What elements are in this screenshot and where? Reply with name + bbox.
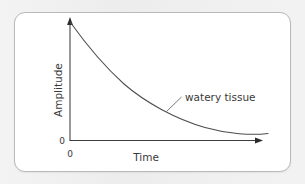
curve-annotation-label: watery tissue	[185, 91, 256, 103]
x-axis-arrow-icon	[255, 138, 263, 144]
x-axis-title: Time	[132, 151, 159, 163]
decay-curve	[71, 23, 269, 135]
annotation-leader-line	[167, 97, 182, 112]
y-origin-label: 0	[59, 136, 65, 146]
amplitude-decay-plot: watery tissue Amplitude Time 0 0	[0, 0, 305, 184]
x-origin-label: 0	[67, 149, 73, 159]
y-axis-title: Amplitude	[52, 63, 64, 117]
